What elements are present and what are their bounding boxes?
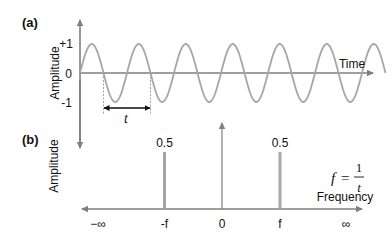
panel-a: (a) +1 0 -1 Amplitude Time t xyxy=(22,15,386,148)
formula-numerator: 1 xyxy=(356,160,363,175)
figure: (a) +1 0 -1 Amplitude Time t (b) Amplitu… xyxy=(0,0,392,243)
x-tick-neg-inf: −∞ xyxy=(90,217,106,231)
x-tick-inf: ∞ xyxy=(342,217,351,231)
x-tick-neg-f: -f xyxy=(161,217,169,231)
formula-lhs: f xyxy=(331,170,337,186)
x-tick-zero: 0 xyxy=(219,217,226,231)
panel-b: (b) Amplitude 0.5 0.5 −∞ -f 0 f ∞ Freque… xyxy=(22,123,373,231)
panel-b-y-axis-title: Amplitude xyxy=(47,139,61,193)
formula-denominator: t xyxy=(357,180,361,195)
panel-a-y-axis-title: Amplitude xyxy=(48,46,62,100)
period-label: t xyxy=(124,111,129,126)
panel-a-label: (a) xyxy=(22,15,38,30)
spike-label-positive: 0.5 xyxy=(272,136,289,150)
formula-equals: = xyxy=(341,170,349,186)
y-tick-0: 0 xyxy=(65,67,72,81)
spike-label-negative: 0.5 xyxy=(156,136,173,150)
y-tick-minus1: -1 xyxy=(61,96,72,110)
x-tick-f: f xyxy=(278,217,282,231)
panel-a-x-axis-title: Time xyxy=(339,57,366,71)
panel-b-x-axis-title: Frequency xyxy=(317,190,374,204)
panel-b-label: (b) xyxy=(22,132,39,147)
